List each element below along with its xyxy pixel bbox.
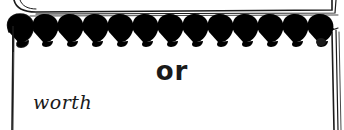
spiral-rings-repeat	[8, 14, 334, 47]
notebook-illustration: or worth	[0, 0, 344, 130]
previous-page-edge	[14, 0, 338, 16]
card-title: or	[0, 58, 344, 84]
handwritten-word: worth	[33, 93, 92, 112]
last-ring-hole	[316, 38, 326, 46]
